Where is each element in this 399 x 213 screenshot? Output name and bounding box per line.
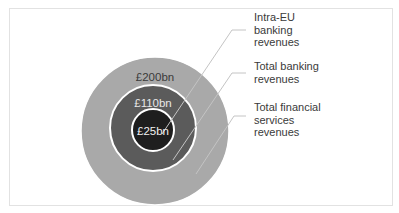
label-total-banking: Total banking revenues: [254, 60, 319, 85]
value-middle: £110bn: [134, 97, 172, 109]
value-inner: £25bn: [137, 125, 169, 137]
value-outer: £200bn: [136, 71, 174, 83]
nested-circle-chart: £200bn £110bn £25bn: [0, 0, 399, 213]
label-intra-eu: Intra-EU banking revenues: [254, 11, 299, 49]
label-total-financial: Total financial services revenues: [254, 101, 321, 139]
